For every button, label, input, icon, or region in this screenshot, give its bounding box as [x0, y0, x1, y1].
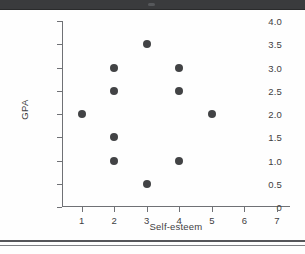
y-axis-title: GPA	[19, 99, 30, 119]
y-tick-label: 4.0	[268, 16, 282, 27]
y-tick-mark	[57, 44, 62, 45]
y-tick-mark	[57, 68, 62, 69]
y-tick-label: 2.5	[268, 85, 282, 96]
x-tick-mark	[82, 207, 83, 212]
data-point	[110, 157, 118, 165]
data-point	[143, 180, 151, 188]
y-tick-label: 1.0	[268, 155, 282, 166]
y-axis-line	[62, 21, 63, 207]
y-tick-mark	[57, 161, 62, 162]
data-point	[110, 133, 118, 141]
x-axis-line	[62, 206, 290, 207]
data-point	[175, 64, 183, 72]
plot-area: 00.51.01.52.02.53.03.54.0 1234567	[62, 21, 290, 207]
device-camera-notch	[148, 3, 155, 6]
x-tick-mark	[114, 207, 115, 212]
data-point	[175, 87, 183, 95]
x-tick-mark	[277, 207, 278, 212]
y-tick-mark	[57, 114, 62, 115]
y-tick-mark	[57, 184, 62, 185]
data-point	[110, 64, 118, 72]
y-tick-label: 2.0	[268, 109, 282, 120]
y-tick-mark	[57, 91, 62, 92]
x-tick-mark	[147, 207, 148, 212]
y-tick-mark	[57, 137, 62, 138]
x-tick-mark	[244, 207, 245, 212]
data-point	[175, 157, 183, 165]
x-tick-mark	[212, 207, 213, 212]
data-point	[78, 110, 86, 118]
y-tick-label: 3.0	[268, 62, 282, 73]
x-axis-title: Self-esteem	[62, 221, 290, 232]
data-point	[143, 40, 151, 48]
page-root: 00.51.01.52.02.53.03.54.0 1234567 GPA Se…	[0, 0, 305, 254]
scatter-chart: 00.51.01.52.02.53.03.54.0 1234567 GPA Se…	[0, 9, 305, 237]
footer-rule-primary	[0, 240, 305, 242]
y-tick-label: 3.5	[268, 39, 282, 50]
x-tick-mark	[179, 207, 180, 212]
data-point	[208, 110, 216, 118]
data-point	[110, 87, 118, 95]
y-tick-mark	[57, 21, 62, 22]
y-tick-label: 1.5	[268, 132, 282, 143]
y-tick-label: 0.5	[268, 178, 282, 189]
footer-rule-secondary	[0, 245, 305, 246]
y-tick-mark	[57, 207, 62, 208]
